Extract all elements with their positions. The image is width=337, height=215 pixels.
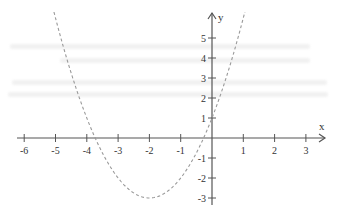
chart: -6-5-4-3-2-1123 -3-2-112345 x y — [0, 0, 337, 215]
y-tick-label: -2 — [198, 173, 206, 184]
x-ticks: -6-5-4-3-2-1123 — [20, 134, 308, 156]
y-tick-label: 2 — [201, 93, 206, 104]
y-axis-label: y — [218, 11, 224, 23]
y-ticks: -3-2-112345 — [198, 33, 216, 204]
x-tick-label: -2 — [145, 145, 153, 156]
x-tick-label: -1 — [177, 145, 185, 156]
curves — [54, 12, 245, 198]
x-tick-label: -5 — [51, 145, 59, 156]
y-tick-label: -1 — [198, 153, 206, 164]
x-axis-label: x — [319, 120, 325, 132]
y-tick-label: 4 — [201, 53, 206, 64]
axes — [17, 13, 325, 205]
y-tick-label: 5 — [201, 33, 206, 44]
y-tick-label: -3 — [198, 193, 206, 204]
x-tick-label: -6 — [20, 145, 28, 156]
y-tick-label: 1 — [201, 113, 206, 124]
y-tick-label: 3 — [201, 73, 206, 84]
x-tick-label: -4 — [83, 145, 91, 156]
x-tick-label: 3 — [303, 145, 308, 156]
parabola-curve — [54, 12, 245, 198]
x-tick-label: 2 — [272, 145, 277, 156]
x-tick-label: 1 — [241, 145, 246, 156]
x-tick-label: -3 — [114, 145, 122, 156]
